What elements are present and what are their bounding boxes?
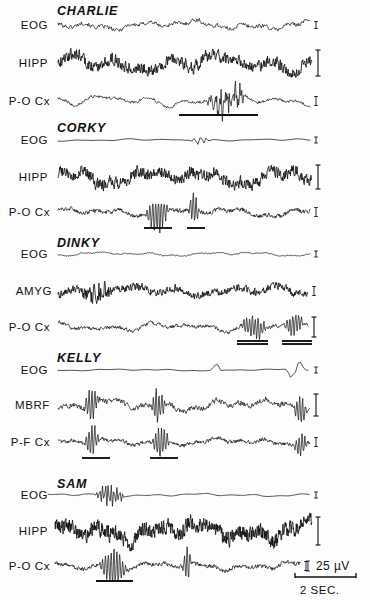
channel-label: P-O Cx: [0, 95, 50, 107]
subject-name: CHARLIE: [57, 4, 118, 18]
subject-name: KELLY: [57, 351, 101, 365]
channel-label: EOG: [0, 134, 48, 146]
eeg-trace-charlie-0: [58, 18, 309, 31]
amplitude-scale-label: 25 µV: [316, 559, 350, 573]
eeg-figure: CHARLIEEOGHIPPP-O CxCORKYEOGHIPPP-O CxDI…: [0, 0, 370, 600]
eeg-trace-corky-2: [58, 193, 310, 233]
channel-label: HIPP: [0, 525, 48, 537]
channel-label: P-O Cx: [0, 560, 50, 572]
eeg-trace-corky-0: [58, 138, 310, 145]
eeg-trace-dinky-2: [58, 315, 308, 339]
subject-name: DINKY: [57, 236, 100, 250]
channel-label: AMYG: [0, 285, 52, 297]
time-scale-label: 2 SEC.: [300, 584, 339, 596]
eeg-trace-kelly-2: [58, 425, 310, 456]
channel-label: P-O Cx: [0, 206, 50, 218]
channel-label: EOG: [0, 19, 48, 31]
eeg-trace-sam-2: [55, 547, 300, 581]
channel-label: P-O Cx: [0, 321, 50, 333]
eeg-trace-dinky-1: [58, 281, 308, 304]
eeg-trace-sam-1: [55, 513, 312, 551]
channel-label: EOG: [0, 248, 48, 260]
eeg-traces-canvas: [0, 0, 370, 600]
channel-label: HIPP: [0, 57, 48, 69]
channel-label: P-F Cx: [0, 436, 50, 448]
eeg-trace-charlie-1: [58, 48, 312, 77]
subject-name: SAM: [57, 477, 87, 491]
eeg-trace-corky-1: [58, 165, 312, 191]
channel-label: EOG: [0, 489, 48, 501]
channel-label: MBRF: [0, 399, 50, 411]
eeg-trace-dinky-0: [58, 252, 310, 257]
eeg-trace-kelly-1: [58, 388, 310, 422]
channel-label: EOG: [0, 364, 48, 376]
channel-label: HIPP: [0, 171, 48, 183]
subject-name: CORKY: [57, 121, 106, 135]
